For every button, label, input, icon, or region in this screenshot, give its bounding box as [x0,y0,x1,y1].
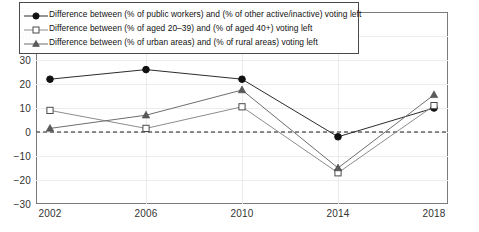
x-axis-tick-label: 2010 [230,208,253,219]
data-point-marker [334,164,341,171]
filled-triangle-marker-icon [23,36,49,48]
data-point-marker [238,86,245,93]
legend-label-urban-rural: Difference between (% of urban areas) an… [49,36,318,48]
y-axis-tick-label: 30 [19,55,31,66]
legend-label-age-groups: Difference between (% of aged 20–39) and… [49,22,312,34]
y-axis-tick-label: −30 [13,199,31,210]
open-square-marker-icon [23,22,49,34]
y-axis-tick-label: −10 [13,151,31,162]
data-point-marker [239,76,246,83]
y-axis-tick-label: 0 [25,127,31,138]
y-axis-tick-label: 10 [19,103,31,114]
filled-circle-marker-icon [23,8,49,20]
y-axis-tick-label: 20 [19,79,31,90]
data-point-marker [431,103,437,109]
x-axis-tick-label: 2018 [422,208,445,219]
data-point-marker [47,76,54,83]
data-point-marker [47,107,53,113]
legend-item-urban-rural: Difference between (% of urban areas) an… [23,35,354,49]
y-axis-tick-label: −20 [13,175,31,186]
x-axis-tick-label: 2006 [134,208,157,219]
data-point-marker [239,104,245,110]
legend-label-public-workers: Difference between (% of public workers)… [49,8,361,20]
x-axis-tick-label: 2014 [326,208,349,219]
chart-figure: −30−20−1001020304050 2002200620102014201… [0,0,479,232]
legend-item-age-groups: Difference between (% of aged 20–39) and… [23,21,354,35]
x-axis-tick-label: 2002 [38,208,61,219]
data-point-marker [430,91,437,98]
data-point-marker [335,134,342,141]
data-point-marker [143,125,149,131]
data-point-marker [143,66,150,73]
chart-legend: Difference between (% of public workers)… [19,2,359,54]
legend-item-public-workers: Difference between (% of public workers)… [23,7,354,21]
series-line-2 [50,90,434,168]
